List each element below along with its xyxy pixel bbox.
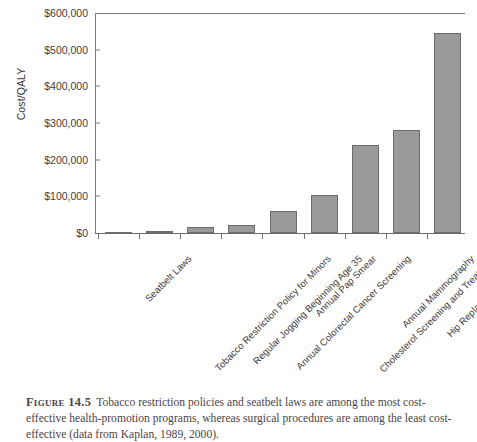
y-tick-label: $400,000 [44, 80, 88, 92]
y-tick-mark [95, 159, 100, 160]
x-axis-line [95, 233, 465, 234]
figure-caption: Figure 14.5Tobacco restriction policies … [26, 394, 458, 442]
bar [311, 195, 338, 234]
y-tick-label: $600,000 [44, 7, 88, 19]
bar [352, 145, 379, 233]
y-tick-mark [95, 49, 100, 50]
y-tick-label: $500,000 [44, 44, 88, 56]
y-tick-mark [95, 86, 100, 87]
bar-chart: Cost/QALY $0$100,000$200,000$300,000$400… [0, 0, 477, 392]
x-tick-mark [98, 233, 99, 239]
y-tick-label: $100,000 [44, 190, 88, 202]
x-tick-mark [180, 233, 181, 239]
x-axis-label: Seatbelt Laws [142, 253, 193, 304]
bar [146, 231, 173, 233]
y-tick-label: $200,000 [44, 154, 88, 166]
bar [105, 232, 132, 233]
x-tick-mark [304, 233, 305, 239]
x-tick-mark [221, 233, 222, 239]
x-tick-mark [262, 233, 263, 239]
y-tick-mark [95, 123, 100, 124]
x-tick-mark [139, 233, 140, 239]
y-tick-label: $0 [76, 227, 88, 239]
y-axis-title: Cost/QALY [15, 54, 27, 134]
bar [270, 211, 297, 233]
figure-14-5: Cost/QALY $0$100,000$200,000$300,000$400… [0, 0, 477, 442]
plot-top-rule [95, 13, 465, 14]
y-tick-mark [95, 196, 100, 197]
bar [434, 33, 461, 233]
x-tick-mark [386, 233, 387, 239]
y-tick-label: $300,000 [44, 117, 88, 129]
bar [228, 225, 255, 233]
figure-caption-number: Figure 14.5 [26, 395, 91, 409]
bar [393, 130, 420, 233]
plot-area: $0$100,000$200,000$300,000$400,000$500,0… [95, 13, 465, 233]
bar [187, 227, 214, 233]
x-tick-mark [345, 233, 346, 239]
x-tick-mark [427, 233, 428, 239]
